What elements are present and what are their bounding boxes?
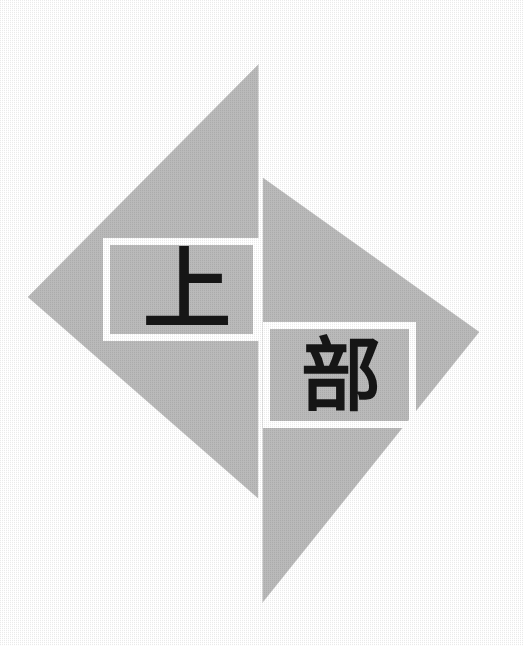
split-diamond-figure [0,0,523,646]
figure-canvas: 上 部 [0,0,523,646]
